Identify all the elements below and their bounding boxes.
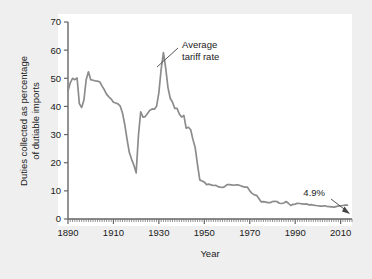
chart-svg: 010203040506070 189019101930195019701990… [0,0,372,279]
y-axis-tick-labels: 010203040506070 [50,16,61,224]
y-axis-title-line2: of dutiable imports [30,82,41,160]
tariff-rate-chart-figure: 010203040506070 189019101930195019701990… [0,0,372,279]
endpoint-annotation-arrowhead [342,207,350,215]
y-tick-label: 30 [50,129,61,140]
x-tick-label: 1930 [148,227,169,238]
x-axis-tick-labels: 1890191019301950197019902010 [57,227,351,238]
x-tick-label: 1950 [194,227,215,238]
y-tick-label: 20 [50,157,61,168]
y-tick-label: 70 [50,16,61,27]
peak-annotation-leader-line [157,48,178,67]
x-tick-label: 1910 [103,227,124,238]
tariff-rate-line [68,53,347,208]
x-tick-label: 1890 [57,227,78,238]
peak-annotation-label-line1: Average [182,39,217,50]
y-axis-title-line1: Duties collected as percentage [18,56,29,186]
x-tick-label: 1990 [285,227,306,238]
x-axis-title: Year [200,248,219,259]
y-tick-label: 50 [50,73,61,84]
peak-annotation-label-line2: tariff rate [182,51,219,62]
y-tick-label: 0 [56,213,61,224]
y-tick-label: 10 [50,185,61,196]
y-tick-label: 60 [50,45,61,56]
endpoint-annotation-label: 4.9% [303,187,325,198]
x-tick-label: 2010 [330,227,351,238]
y-tick-label: 40 [50,101,61,112]
x-tick-label: 1970 [239,227,260,238]
